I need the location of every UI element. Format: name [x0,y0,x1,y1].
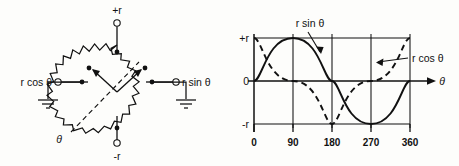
waveform-plot: r sin θ r cos θ +r 0 -r 0 90 180 270 360… [232,0,459,166]
tap-dot-bottom [115,126,120,131]
rotor-angle-label: θ [56,133,62,145]
y-label-zero: 0 [243,75,249,87]
y-label-plus-r: +r [239,32,249,44]
x-tick-label-360: 360 [402,137,419,148]
resistive-ring [47,44,139,134]
ground-left-wire [48,82,82,99]
x-tick-label-180: 180 [324,137,341,148]
x-tick-label-0: 0 [251,137,257,148]
circuit-diagram: +r -r r cos θ r sin θ θ [0,0,232,166]
rotor-dashed-line [71,62,139,132]
terminal-bottom-label: -r [114,150,121,162]
circuit-svg: +r -r r cos θ r sin θ θ [0,0,232,166]
x-tick-marks [254,124,410,132]
terminal-bottom [114,116,120,146]
curve-label-cosine: r cos θ [412,52,444,64]
terminal-left-label: r cos θ [20,76,52,88]
annotation-sine: r sin θ [296,17,325,54]
leader-arrowhead-cosine-icon [376,59,383,66]
x-tick-label-270: 270 [363,137,380,148]
tap-dot-top [115,50,120,55]
tap-dot-upper-left [87,66,92,71]
terminal-right-label: r sin θ [182,76,211,88]
y-label-minus-r: -r [242,118,249,130]
node-circle-bottom-icon [114,140,120,146]
x-tick-label-90: 90 [287,137,299,148]
resistor-zigzag-path [47,44,139,134]
node-circle-top-icon [114,20,120,26]
terminal-top-label: +r [112,4,122,16]
x-axis-label: θ [439,75,445,87]
rotor-shaft [71,62,139,132]
tap-dot-upper-right [143,66,148,71]
leader-arrowhead-sine-icon [316,47,323,54]
x-axis-arrowhead-icon [427,77,436,85]
figure-root: +r -r r cos θ r sin θ θ [0,0,459,166]
plot-svg: r sin θ r cos θ +r 0 -r 0 90 180 270 360… [232,0,459,166]
ground-right-wire [152,82,186,99]
curve-label-sine: r sin θ [296,17,325,29]
